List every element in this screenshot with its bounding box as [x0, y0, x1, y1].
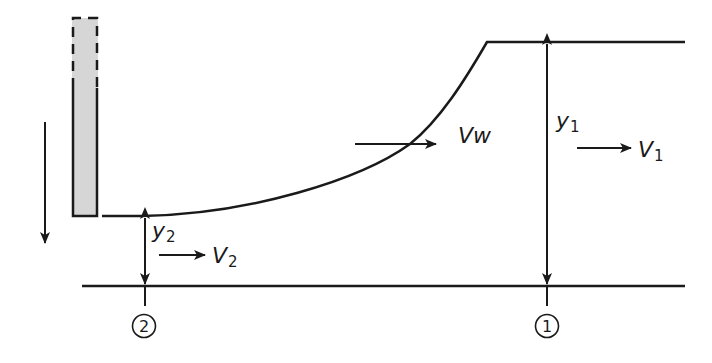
- v2-label: V2: [212, 243, 238, 271]
- section-1-label: 1: [542, 317, 552, 336]
- y1-label: y1: [555, 108, 580, 136]
- section-2-marker: 2: [133, 315, 156, 338]
- water-surface: [102, 42, 685, 216]
- v1-label: V1: [638, 137, 664, 165]
- sluice-gate: [72, 18, 98, 216]
- gate-body: [72, 18, 98, 216]
- y2-label: y2: [151, 218, 176, 246]
- flow-diagram: 2 1 y2 V2 y1 V1 Vw: [0, 0, 712, 363]
- section-2-label: 2: [139, 317, 149, 336]
- section-1-marker: 1: [536, 315, 559, 338]
- vw-label: Vw: [458, 123, 492, 148]
